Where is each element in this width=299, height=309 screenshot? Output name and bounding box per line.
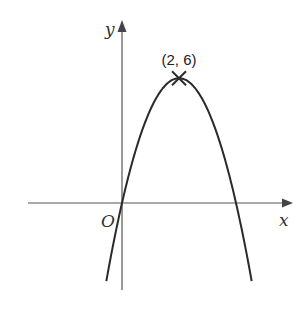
x-axis-arrow-icon <box>282 199 293 208</box>
parabola-curve <box>106 78 251 281</box>
y-axis-label: y <box>104 19 115 39</box>
y-axis-arrow-icon <box>118 20 127 32</box>
x-axis-label: x <box>279 210 289 230</box>
parabola-graph: x y O (2, 6) <box>0 0 299 309</box>
vertex-label: (2, 6) <box>161 51 196 68</box>
origin-label: O <box>101 211 115 231</box>
